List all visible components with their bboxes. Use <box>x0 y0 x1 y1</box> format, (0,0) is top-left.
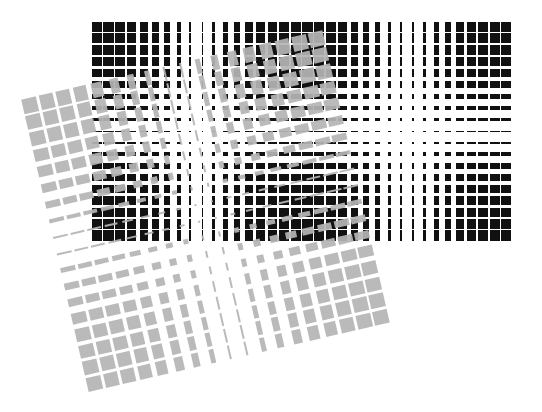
grid-cell <box>53 233 68 238</box>
grid-cell <box>350 214 366 224</box>
grid-cell <box>199 75 207 90</box>
grid-cell <box>89 152 104 165</box>
grid-cell <box>303 308 317 324</box>
grid-cell <box>423 94 427 99</box>
grid-cell <box>490 81 500 88</box>
grid-cell <box>85 135 100 150</box>
grid-cell <box>351 106 358 110</box>
grid-cell <box>490 45 500 55</box>
grid-cell <box>130 250 142 257</box>
grid-cell <box>126 315 141 330</box>
grid-cell <box>445 69 452 77</box>
grid-cell <box>262 59 277 76</box>
grid-cell <box>103 22 113 32</box>
grid-cell <box>434 142 439 144</box>
grid-cell <box>388 45 391 55</box>
grid-cell <box>84 292 100 304</box>
grid-cell <box>363 174 369 181</box>
grid-cell <box>412 163 414 168</box>
grid-cell <box>467 118 476 120</box>
grid-cell <box>62 195 78 205</box>
grid-cell <box>245 273 252 285</box>
grid-cell <box>202 45 203 55</box>
grid-cell <box>287 312 299 328</box>
grid-cell <box>319 154 334 162</box>
grid-cell <box>423 106 427 110</box>
grid-cell <box>400 142 401 144</box>
grid-cell <box>434 33 439 43</box>
grid-cell <box>388 94 391 99</box>
grid-cell <box>412 230 414 240</box>
grid-cell <box>279 55 296 72</box>
grid-cell <box>45 198 61 208</box>
grid-cell <box>60 265 75 273</box>
grid-cell <box>214 143 221 153</box>
grid-cell <box>332 284 348 300</box>
grid-cell <box>202 22 203 32</box>
grid-cell <box>291 34 308 51</box>
grid-cell <box>275 333 285 348</box>
grid-cell <box>456 219 464 229</box>
grid-cell <box>140 215 149 219</box>
grid-cell <box>456 208 464 218</box>
grid-cell <box>434 69 439 77</box>
grid-cell <box>58 177 74 189</box>
grid-cell <box>178 134 183 145</box>
grid-cell <box>467 22 476 32</box>
grid-cell <box>234 84 246 99</box>
grid-cell <box>105 222 118 227</box>
grid-cell <box>375 33 379 43</box>
grid-cell <box>115 33 125 43</box>
grid-cell <box>501 57 511 66</box>
grid-cell <box>363 22 369 32</box>
grid-cell <box>95 339 112 355</box>
grid-cell <box>314 207 328 214</box>
grid-cell <box>335 300 352 317</box>
grid-cell <box>87 226 101 231</box>
grid-cell <box>354 229 370 241</box>
grid-cell <box>101 204 114 211</box>
grid-cell <box>363 69 369 77</box>
grid-cell <box>423 118 427 120</box>
grid-cell <box>218 161 224 169</box>
grid-cell <box>140 22 148 32</box>
grid-cell <box>92 22 102 32</box>
grid-cell <box>445 131 452 132</box>
grid-cell <box>490 22 500 32</box>
grid-cell <box>501 174 511 181</box>
grid-cell <box>412 174 414 181</box>
grid-cell <box>501 219 511 229</box>
grid-cell <box>246 63 260 79</box>
grid-cell <box>267 301 277 316</box>
grid-cell <box>290 105 306 119</box>
grid-cell <box>222 247 226 254</box>
grid-cell <box>351 81 358 88</box>
grid-cell <box>187 96 192 109</box>
grid-cell <box>320 80 337 95</box>
grid-cell <box>478 163 488 168</box>
grid-cell <box>98 115 112 131</box>
grid-cell <box>259 337 267 352</box>
grid-cell <box>142 141 151 153</box>
grid-cell <box>150 176 158 184</box>
grid-cell <box>183 239 189 244</box>
grid-cell <box>140 57 148 66</box>
grid-cell <box>172 273 181 283</box>
grid-cell <box>59 105 76 122</box>
grid-cell <box>478 94 488 99</box>
grid-cell <box>388 174 391 181</box>
grid-cell <box>115 269 129 278</box>
grid-cell <box>98 273 113 283</box>
grid-cell <box>278 200 289 205</box>
grid-cell <box>46 126 63 142</box>
grid-cell <box>271 317 281 332</box>
moire-canvas: Moiré grid pattern <box>0 0 542 412</box>
grid-cell <box>400 57 401 66</box>
grid-cell <box>423 174 427 181</box>
grid-cell <box>265 219 275 225</box>
grid-cell <box>274 109 289 122</box>
grid-cell <box>372 309 390 326</box>
grid-cell <box>285 230 297 239</box>
grid-cell <box>358 245 375 259</box>
grid-cell <box>478 196 488 205</box>
